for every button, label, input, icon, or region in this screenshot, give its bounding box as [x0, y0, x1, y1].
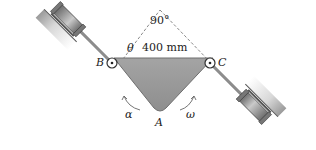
point-c-label: C	[218, 56, 227, 69]
dimension-label: 400 mm	[142, 41, 188, 54]
theta-label: θ	[127, 42, 134, 55]
pin-joint-c	[205, 58, 215, 68]
triangular-plate	[114, 58, 213, 111]
alpha-label: α	[125, 108, 133, 121]
left-hydraulic-cylinder	[36, 0, 117, 79]
omega-label: ω	[186, 108, 195, 121]
point-b-label: B	[95, 56, 104, 69]
mechanism-diagram: 90° θ 400 mm B C A α ω	[0, 0, 316, 150]
angle-90-label: 90°	[150, 14, 170, 27]
point-a-label: A	[154, 116, 163, 129]
pin-joint-b	[107, 58, 117, 68]
